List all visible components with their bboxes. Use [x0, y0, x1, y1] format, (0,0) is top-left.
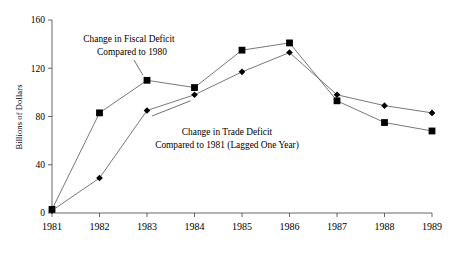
x-tick-label: 1982	[90, 221, 110, 232]
y-tick-label: 120	[31, 64, 46, 74]
chart-container: 04080120160 1981198219831984198519861987…	[0, 0, 452, 257]
data-point-square	[286, 40, 293, 47]
y-axis-label: Billions of Dollars	[14, 84, 24, 149]
line-chart: 04080120160 1981198219831984198519861987…	[0, 0, 452, 257]
x-tick-label: 1989	[422, 221, 442, 232]
annotation-trade-line2: Compared to 1981 (Lagged One Year)	[155, 140, 299, 151]
x-tick-label: 1985	[232, 221, 252, 232]
y-tick-label: 80	[36, 112, 46, 122]
data-point-square	[239, 47, 246, 54]
x-tick-label: 1987	[327, 221, 347, 232]
y-tick-label: 40	[36, 160, 46, 170]
x-tick-label: 1981	[42, 221, 62, 232]
y-tick-label: 160	[31, 15, 46, 25]
data-point-square	[144, 77, 151, 84]
data-point-square	[429, 128, 436, 135]
data-point-square	[381, 119, 388, 126]
data-point-square	[334, 97, 341, 104]
annotation-fiscal-line2: Compared to 1980	[97, 47, 167, 57]
x-tick-label: 1988	[375, 221, 395, 232]
data-point-square	[96, 109, 103, 116]
x-tick-label: 1986	[280, 221, 300, 232]
data-point-square	[191, 84, 198, 91]
x-tick-label: 1984	[185, 221, 205, 232]
annotation-trade-line1: Change in Trade Deficit	[182, 127, 273, 137]
annotation-fiscal-line1: Change in Fiscal Deficit	[83, 34, 175, 44]
x-tick-label: 1983	[137, 221, 157, 232]
y-tick-label: 0	[40, 208, 45, 218]
